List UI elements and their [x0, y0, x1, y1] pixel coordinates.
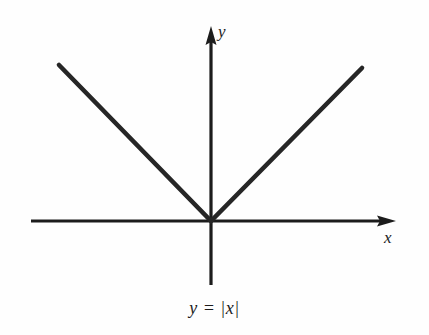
figure-container: y x y = |x|: [0, 0, 429, 335]
x-axis-label: x: [384, 229, 392, 246]
plot-canvas: [0, 0, 429, 335]
equation-caption: y = |x|: [0, 298, 429, 319]
y-axis-label: y: [218, 23, 226, 40]
y-axis: [206, 26, 217, 285]
